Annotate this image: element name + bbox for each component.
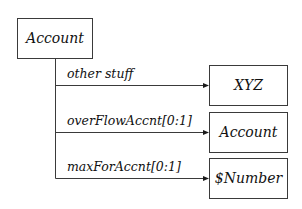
root-node-label: Account [24, 30, 84, 46]
target-node-label: Account [218, 124, 278, 140]
edge-label: other stuff [67, 66, 135, 81]
arrowhead-icon [203, 176, 209, 181]
edge-other-stuff: other stuff [56, 66, 210, 88]
edge-label: overFlowAccnt[0:1] [67, 113, 192, 128]
target-node-xyz: XYZ [210, 66, 288, 106]
edge-overflow-accnt: overFlowAccnt[0:1] [56, 113, 210, 135]
edge-label: maxForAccnt[0:1] [67, 159, 181, 174]
edge-max-for-accnt: maxForAccnt[0:1] [56, 159, 210, 181]
root-node: Account [18, 19, 93, 59]
arrowhead-icon [203, 130, 209, 135]
diagram-canvas: Account other stuff XYZ overFlowAccnt[0:… [0, 0, 302, 209]
target-node-label: $Number [215, 170, 284, 186]
target-node-label: XYZ [233, 77, 263, 93]
target-node-number: $Number [210, 159, 288, 199]
target-node-account: Account [210, 113, 288, 153]
arrowhead-icon [203, 83, 209, 88]
